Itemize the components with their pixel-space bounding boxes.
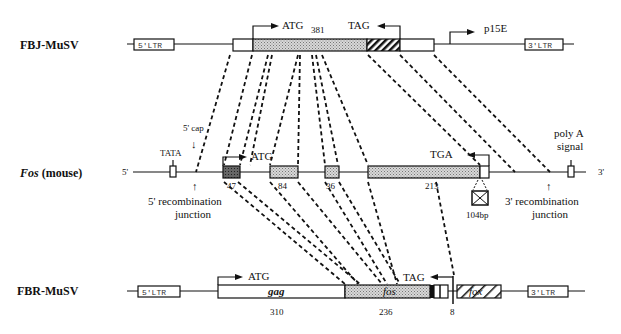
fbr-3ltr-box: 3'LTR — [528, 286, 568, 297]
polya-box — [568, 166, 574, 177]
exon-size-label: 36 — [326, 181, 336, 191]
fbj-5ltr-box: 5'LTR — [134, 39, 174, 50]
fbr-fos-label: fos — [383, 285, 396, 297]
fos-atg-label: ATG — [251, 150, 272, 162]
polya-label-1: poly A — [554, 127, 584, 139]
insert-bracket — [473, 180, 478, 190]
fbr-musv-row: FBR-MuSV 5'LTR gag fos fox ATG TAG 3'LTR… — [17, 270, 585, 317]
104bp-insert-box — [472, 191, 488, 205]
5junction-up-arrow: ↑ — [192, 180, 198, 192]
insert-size-label: 104bp — [466, 210, 489, 220]
3junction-label-1: 3' recombination — [505, 195, 579, 207]
mapping-line — [196, 55, 230, 172]
mapping-line — [368, 182, 397, 284]
fbj-tag-arrow — [377, 23, 400, 39]
fbr-tag-label: TAG — [403, 271, 425, 283]
fbj-fos-region — [253, 39, 367, 51]
mapping-line — [436, 182, 454, 275]
fbr-atg-label: ATG — [248, 270, 269, 282]
fos-atg-arrow — [223, 154, 247, 166]
mapping-line — [240, 55, 268, 165]
fos-label-species: (mouse) — [39, 166, 83, 180]
tata-label: TATA — [160, 148, 182, 158]
insert-bracket — [482, 180, 487, 190]
3junction-up-arrow: ↑ — [546, 180, 552, 192]
fos-3prime-end: 3' — [598, 167, 605, 177]
mapping-line — [298, 55, 300, 165]
mapping-line — [368, 55, 480, 165]
fbr-size-label: 8 — [450, 307, 455, 317]
mapping-line — [270, 55, 298, 165]
fos-5prime-end: 5' — [122, 167, 129, 177]
mapping-line — [238, 182, 360, 284]
fbr-5ltr-label: 5'LTR — [142, 288, 166, 297]
5junction-label-1: 5' recombination — [148, 195, 222, 207]
fbj-musv-row: FBJ-MuSV 5'LTR ATG 381 TAG p15E 3'LTR — [20, 19, 574, 52]
fbr-label: FBR-MuSV — [17, 284, 79, 298]
polya-label-2: signal — [557, 140, 583, 152]
fbr-black-band — [430, 285, 434, 298]
fbj-3ltr-label: 3'LTR — [528, 41, 552, 50]
fos-tga-label: TGA — [430, 148, 453, 160]
fos-label: Fos (mouse) — [19, 166, 82, 180]
mapping-line — [400, 55, 515, 172]
fbr-5ltr-box: 5'LTR — [138, 286, 180, 297]
fbr-tag-arrow — [430, 274, 453, 280]
5cap-down-arrow: ↓ — [191, 138, 197, 150]
fbr-3ltr-label: 3'LTR — [531, 288, 555, 297]
fos-to-fbr-mapping-lines — [224, 182, 454, 284]
fbj-3ltr-box: 3'LTR — [525, 39, 563, 50]
mapping-line — [325, 182, 387, 284]
retrovirus-fos-diagram: FBJ-MuSV 5'LTR ATG 381 TAG p15E 3'LTR — [0, 0, 621, 334]
fbr-gag-label: gag — [267, 285, 285, 297]
mapping-line — [316, 55, 338, 165]
5cap-label: 5' cap — [183, 123, 204, 133]
fbj-env-region — [400, 39, 434, 51]
fbr-fox-label: fox — [469, 285, 483, 297]
fbj-length-label: 381 — [311, 25, 325, 35]
fbj-atg-arrow — [253, 23, 279, 39]
fos-mouse-row: Fos (mouse) 5' 3' TATA 5' cap ↓ 47 84 36… — [19, 123, 605, 220]
fbj-tag-label: TAG — [348, 19, 370, 31]
fbj-atg-label: ATG — [282, 19, 303, 31]
fbj-5ltr-label: 5'LTR — [138, 41, 162, 50]
fbr-size-label: 310 — [270, 307, 284, 317]
fos-3utr — [480, 166, 489, 178]
fbj-hatched-region — [367, 39, 400, 51]
fos-exon-4 — [368, 166, 480, 178]
tata-box — [170, 166, 176, 177]
5junction-label-2: junction — [174, 208, 212, 220]
fbj-label: FBJ-MuSV — [20, 38, 79, 52]
fos-label-gene: Fos — [19, 166, 39, 180]
3junction-label-2: junction — [531, 208, 569, 220]
fbj-p15e-label: p15E — [484, 22, 508, 34]
mapping-line — [224, 182, 345, 284]
fbj-gag-remnant — [233, 39, 253, 51]
fbr-size-label: 236 — [379, 307, 393, 317]
fbj-p15e-promoter-arrow — [450, 29, 475, 44]
mapping-line — [224, 55, 252, 165]
fbj-to-fos-mapping-lines — [196, 55, 550, 172]
fbr-atg-arrow — [218, 274, 243, 285]
mapping-line — [322, 55, 368, 165]
exon-size-label: 84 — [278, 181, 288, 191]
fos-exon-2 — [270, 166, 298, 178]
fos-exon-3 — [325, 166, 339, 178]
fbr-white-segment — [434, 285, 448, 298]
fos-exon-1 — [223, 166, 240, 178]
